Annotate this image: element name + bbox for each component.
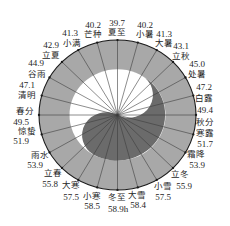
spoke-end-dot (172, 61, 174, 63)
term-name: 小寒 (83, 192, 101, 201)
term-name: 惊蛰 (18, 127, 36, 136)
term-name: 大寒 (62, 181, 80, 190)
term-value: 44.9 (28, 59, 44, 68)
spoke-end-dot (137, 186, 139, 188)
term-value: 49.5 (13, 118, 29, 127)
term-name: 芒种 (84, 30, 102, 39)
term-name: 处暑 (188, 70, 206, 79)
term-name: 立春 (44, 169, 62, 178)
spoke-end-dot (48, 76, 50, 78)
term-value: 55.9 (176, 182, 192, 191)
term-value: 49.4 (197, 106, 213, 115)
term-name: 立秋 (172, 52, 190, 61)
spoke-end-dot (96, 41, 98, 43)
term-value: 53.9 (27, 161, 43, 170)
term-name: 谷雨 (28, 70, 46, 79)
term-value: 57.5 (155, 193, 171, 202)
term-value: 57.5 (63, 193, 79, 202)
term-value: 53.9 (189, 161, 205, 170)
term-name: 大雪 (128, 191, 146, 200)
spoke-end-dot (96, 186, 98, 188)
spoke-end-dot (40, 133, 42, 135)
term-value: 58.9h (108, 205, 128, 214)
spoke-end-dot (40, 94, 42, 96)
spoke-end-dot (77, 49, 79, 51)
spoke-end-dot (61, 61, 63, 63)
spoke-end-dot (156, 49, 158, 51)
spoke-end-dot (192, 133, 194, 135)
term-name: 小暑 (136, 30, 154, 39)
term-value: 45.0 (189, 60, 205, 69)
spoke-end-dot (184, 76, 186, 78)
term-name: 立夏 (42, 51, 60, 60)
term-value: 58.4 (130, 201, 146, 210)
term-name: 秋分 (196, 118, 214, 127)
term-name: 立冬 (171, 170, 189, 179)
term-value: 51.7 (197, 140, 213, 149)
spoke-end-dot (137, 41, 139, 43)
term-value: 51.9 (13, 137, 29, 146)
term-value: 42.9 (43, 41, 59, 50)
term-value: 55.8 (42, 180, 58, 189)
term-value: 47.1 (19, 81, 35, 90)
term-value: 41.3 (62, 29, 78, 38)
term-name: 大暑 (155, 39, 173, 48)
spoke-end-dot (38, 114, 40, 116)
term-name: 夏至 (108, 28, 126, 37)
term-value: 47.2 (196, 83, 212, 92)
term-name: 春分 (16, 107, 34, 116)
term-name: 清明 (18, 91, 36, 100)
term-name: 寒露 (196, 129, 214, 138)
solar-terms-taiji-diagram: 39.7 夏至 40.2 小暑 41.3 大暑 43.1 立秋 45.0 处暑 … (0, 0, 230, 226)
term-name: 小雪 (154, 182, 172, 191)
term-name: 白露 (195, 94, 213, 103)
spoke-end-dot (116, 39, 118, 41)
term-name: 小满 (63, 39, 81, 48)
term-name: 霜降 (187, 150, 205, 159)
term-value: 58.5 (84, 202, 100, 211)
term-name: 雨水 (31, 151, 49, 160)
term-value: 43.1 (173, 42, 189, 51)
term-name: 冬至 (108, 193, 126, 202)
